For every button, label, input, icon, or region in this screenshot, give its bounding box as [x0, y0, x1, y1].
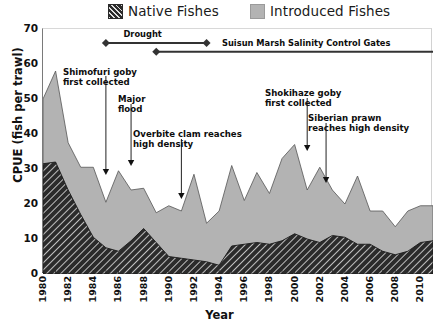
x-tick-1984: 1984: [87, 276, 98, 302]
annotation-arrowhead-icon: [178, 193, 184, 199]
y-tick-20: 20: [0, 197, 38, 209]
x-axis-ticks: 1980198219841986198819901992199419961998…: [42, 276, 432, 310]
y-tick-10: 10: [0, 232, 38, 244]
legend-label-introduced: Introduced Fishes: [270, 3, 390, 19]
chart-figure: Native Fishes Introduced Fishes 01020304…: [0, 0, 439, 326]
legend-swatch-introduced-icon: [250, 4, 265, 19]
event-bar-label-drought: Drought: [123, 29, 161, 39]
x-axis-title: Year: [0, 308, 439, 322]
annotation-text-siberian-prawn: Siberian prawn reaches high density: [308, 113, 409, 134]
annotation-text-shokihaze-goby: Shokihaze goby first collected: [265, 88, 341, 109]
x-tick-1992: 1992: [188, 276, 199, 302]
x-tick-1990: 1990: [163, 276, 174, 302]
x-tick-1982: 1982: [62, 276, 73, 302]
chart-legend: Native Fishes Introduced Fishes: [0, 2, 439, 22]
plot-area: [42, 28, 432, 273]
x-tick-1980: 1980: [37, 276, 48, 302]
x-tick-1998: 1998: [263, 276, 274, 302]
annotation-arrowhead-icon: [128, 160, 134, 166]
legend-label-native: Native Fishes: [128, 3, 219, 19]
x-tick-1988: 1988: [138, 276, 149, 302]
annotation-text-shimofuri-goby: Shimofuri goby first collected: [63, 67, 137, 88]
x-tick-1986: 1986: [112, 276, 123, 302]
legend-item-native-fishes: Native Fishes: [108, 3, 219, 19]
x-tick-2008: 2008: [389, 276, 400, 302]
legend-swatch-native-icon: [108, 4, 123, 19]
y-tick-70: 70: [0, 22, 38, 34]
y-axis-title: CPUE (fish per trawl): [11, 40, 25, 190]
x-tick-1996: 1996: [238, 276, 249, 302]
x-tick-2000: 2000: [289, 276, 300, 302]
event-bar-label-salinity-gates: Suisun Marsh Salinity Control Gates: [222, 38, 390, 48]
x-tick-1994: 1994: [213, 276, 224, 302]
x-tick-2004: 2004: [339, 276, 350, 302]
event-marker-diamond-icon: [203, 39, 211, 47]
annotation-arrowhead-icon: [304, 145, 310, 151]
x-tick-2006: 2006: [364, 276, 375, 302]
x-tick-2002: 2002: [314, 276, 325, 302]
annotation-arrowhead-icon: [103, 169, 109, 175]
y-tick-0: 0: [0, 267, 38, 279]
legend-item-introduced-fishes: Introduced Fishes: [250, 3, 390, 19]
annotation-text-overbite-clam: Overbite clam reaches high density: [133, 129, 242, 150]
stacked-area-plot: [43, 29, 433, 274]
event-marker-diamond-icon: [102, 39, 110, 47]
annotation-text-major-flood: Major flood: [118, 94, 145, 115]
x-tick-2010: 2010: [414, 276, 425, 302]
event-marker-diamond-icon: [152, 48, 160, 56]
